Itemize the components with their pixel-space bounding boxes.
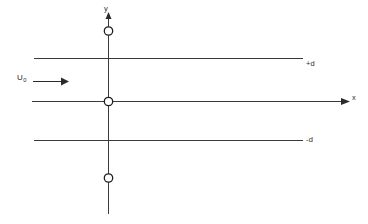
arrow-up-icon-y-axis	[106, 12, 112, 19]
upper-wall-label: +d	[306, 60, 315, 68]
origin-marker-circle	[104, 97, 112, 105]
upper-marker-circle	[104, 27, 112, 35]
diagram-canvas	[0, 0, 368, 224]
lower-marker-circle	[104, 174, 112, 182]
y-axis-label: y	[104, 5, 108, 13]
lower-wall-label: -d	[306, 136, 313, 144]
arrow-right-icon-x-axis	[341, 98, 350, 105]
flow-diagram-figure: y x U0 +d -d	[0, 0, 368, 224]
flow-velocity-label: U0	[17, 74, 26, 82]
flow-velocity-subscript: 0	[23, 77, 26, 83]
arrow-right-icon-flow	[61, 78, 69, 86]
x-axis-label: x	[352, 94, 356, 102]
